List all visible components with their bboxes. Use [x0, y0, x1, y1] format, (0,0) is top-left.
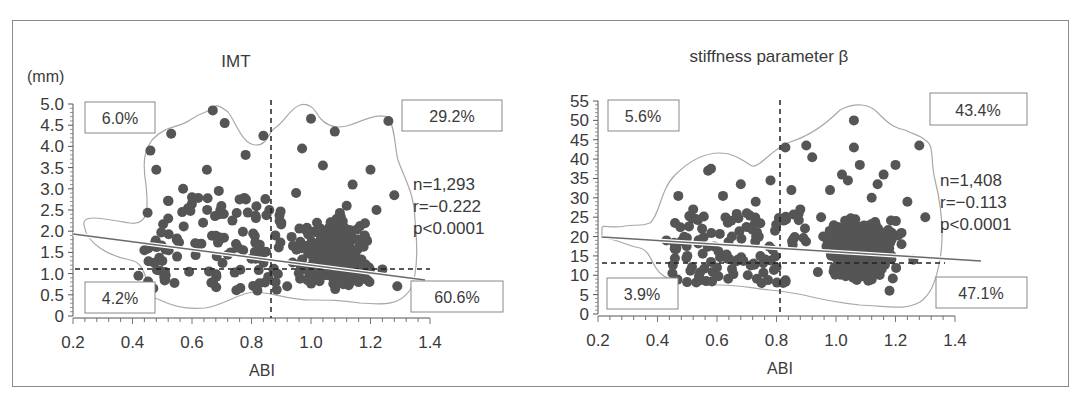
y-tick-label: 40	[570, 150, 589, 169]
svg-text:29.2%: 29.2%	[429, 108, 474, 125]
y-tick-label: 0.5	[40, 286, 64, 305]
beta-panel: stiffness parameter β 051015202530354045…	[570, 47, 1027, 377]
imt-regression-line-stroke	[73, 234, 425, 280]
y-tick-label: 2.5	[40, 201, 64, 220]
y-tick-label: 10	[570, 266, 589, 285]
beta-y-axis: 0510152025303540455055	[570, 92, 598, 324]
imt-stats: n=1,293 r=−0.222 p<0.0001	[413, 175, 484, 238]
x-tick-label: 1.4	[418, 333, 442, 352]
x-tick-label: 0.4	[646, 331, 670, 350]
y-tick-label: 3.5	[40, 159, 64, 178]
y-tick-label: 30	[570, 189, 589, 208]
x-tick-label: 0.2	[586, 331, 610, 350]
x-tick-label: 0.8	[765, 331, 789, 350]
y-tick-label: 2.0	[40, 222, 64, 241]
y-tick-label: 4.0	[40, 137, 64, 156]
x-tick-label: 0.6	[180, 333, 204, 352]
imt-quadrant-bottom-right: 60.6%	[411, 281, 503, 312]
x-tick-label: 1.2	[884, 331, 908, 350]
imt-x-axis: 0.20.40.60.81.01.21.4	[61, 318, 442, 352]
x-tick-label: 1.0	[299, 333, 323, 352]
y-tick-label: 0	[580, 305, 589, 324]
beta-x-axis: 0.20.40.60.81.01.21.4	[586, 316, 967, 350]
y-tick-label: 1.5	[40, 243, 64, 262]
y-tick-label: 4.5	[40, 116, 64, 135]
y-tick-label: 5	[580, 286, 589, 305]
beta-scatter-points	[661, 115, 930, 295]
y-tick-label: 35	[570, 169, 589, 188]
imt-quadrant-top-left: 6.0%	[85, 102, 155, 133]
figure-canvas: IMT (mm) 00.51.01.52.02.53.03.54.04.55.0…	[0, 0, 1081, 420]
imt-y-axis: 00.51.01.52.02.53.03.54.04.55.0	[40, 95, 73, 326]
imt-panel: IMT (mm) 00.51.01.52.02.53.03.54.04.55.0…	[27, 52, 503, 379]
y-tick-label: 0	[55, 307, 64, 326]
x-tick-label: 0.2	[61, 333, 85, 352]
x-tick-label: 0.6	[705, 331, 729, 350]
y-tick-label: 3.0	[40, 180, 64, 199]
imt-stat-r: r=−0.222	[413, 197, 481, 216]
beta-quadrant-bottom-right: 47.1%	[936, 277, 1027, 308]
imt-stat-n: n=1,293	[413, 175, 475, 194]
svg-text:60.6%: 60.6%	[434, 289, 479, 306]
imt-stat-p: p<0.0001	[413, 219, 484, 238]
svg-text:5.6%: 5.6%	[625, 108, 661, 125]
x-tick-label: 1.4	[943, 331, 967, 350]
imt-title: IMT	[221, 52, 250, 71]
imt-quadrant-top-right: 29.2%	[402, 100, 502, 131]
svg-text:43.4%: 43.4%	[955, 102, 1000, 119]
svg-text:47.1%: 47.1%	[958, 285, 1003, 302]
x-tick-label: 0.4	[121, 333, 145, 352]
y-tick-label: 5.0	[40, 95, 64, 114]
beta-stat-n: n=1,408	[940, 171, 1002, 190]
imt-x-label: ABI	[249, 362, 275, 379]
imt-y-unit: (mm)	[27, 68, 64, 85]
svg-text:4.2%: 4.2%	[102, 290, 138, 307]
beta-x-label: ABI	[767, 360, 793, 377]
svg-text:3.9%: 3.9%	[624, 286, 660, 303]
y-tick-label: 25	[570, 208, 589, 227]
x-tick-label: 0.8	[240, 333, 264, 352]
beta-quadrant-top-left: 5.6%	[608, 100, 679, 131]
imt-quadrant-bottom-left: 4.2%	[85, 282, 155, 313]
beta-stat-p: p<0.0001	[940, 215, 1011, 234]
beta-stat-r: r=−0.113	[940, 193, 1007, 212]
x-tick-label: 1.2	[359, 333, 383, 352]
y-tick-label: 45	[570, 131, 589, 150]
y-tick-label: 50	[570, 111, 589, 130]
beta-quadrant-bottom-left: 3.9%	[607, 278, 678, 309]
beta-quadrant-top-right: 43.4%	[930, 93, 1027, 125]
y-tick-label: 1.0	[40, 265, 64, 284]
x-tick-label: 1.0	[824, 331, 848, 350]
y-tick-label: 20	[570, 228, 589, 247]
beta-stats: n=1,408 r=−0.113 p<0.0001	[940, 171, 1011, 234]
imt-scatter-points	[133, 105, 402, 295]
y-tick-label: 55	[570, 92, 589, 111]
y-tick-label: 15	[570, 247, 589, 266]
beta-title: stiffness parameter β	[690, 47, 849, 66]
svg-text:6.0%: 6.0%	[102, 110, 138, 127]
